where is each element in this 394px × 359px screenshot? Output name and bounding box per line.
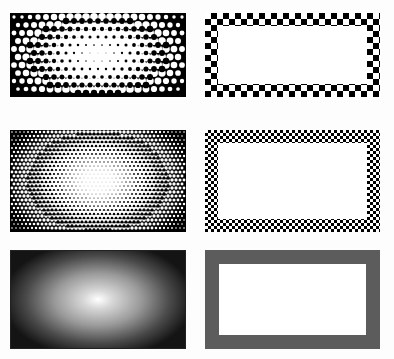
frame-inner-white xyxy=(219,264,366,335)
frame-inner-white xyxy=(218,26,367,84)
smooth-gradient-panel xyxy=(10,250,186,349)
solid-gray-frame xyxy=(205,250,380,349)
checker-fine-frame xyxy=(205,130,380,232)
halftone-coarse-panel xyxy=(10,13,186,97)
halftone-fine-panel xyxy=(10,130,186,232)
checker-coarse-frame xyxy=(205,13,380,97)
frame-inner-white xyxy=(218,143,367,219)
